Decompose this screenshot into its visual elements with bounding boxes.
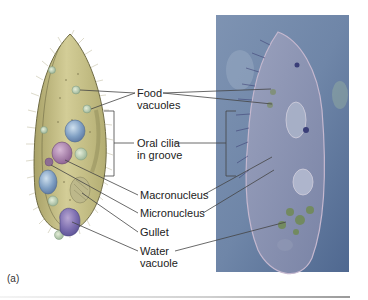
food-vacuole [72, 86, 80, 94]
figure-canvas [0, 0, 368, 300]
label-oral-cilia-line2: in groove [137, 149, 182, 161]
label-oral-cilia: Oral cilia in groove [137, 137, 182, 161]
label-micronucleus: Micronucleus [140, 207, 205, 219]
water-vacuole-left [39, 170, 57, 194]
label-food-vacuoles: Food vacuoles [137, 87, 180, 111]
label-food-line2: vacuoles [137, 99, 180, 111]
water-vacuole [60, 208, 80, 236]
bottom-divider [0, 296, 350, 298]
label-gullet: Gullet [140, 226, 169, 238]
contractile-vacuole-upper [65, 120, 85, 142]
paramecium-illustration [26, 30, 113, 240]
label-water-vacuole: Water vacuole [140, 245, 178, 269]
label-water-line1: Water [140, 245, 178, 257]
label-food-line1: Food [137, 87, 180, 99]
micronucleus [45, 158, 53, 166]
label-oral-cilia-line1: Oral cilia [137, 137, 182, 149]
label-water-line2: vacuole [140, 257, 178, 269]
food-vacuole [83, 105, 91, 113]
label-macronucleus: Macronucleus [140, 189, 208, 201]
macronucleus [52, 142, 72, 164]
panel-label: (a) [7, 273, 19, 284]
